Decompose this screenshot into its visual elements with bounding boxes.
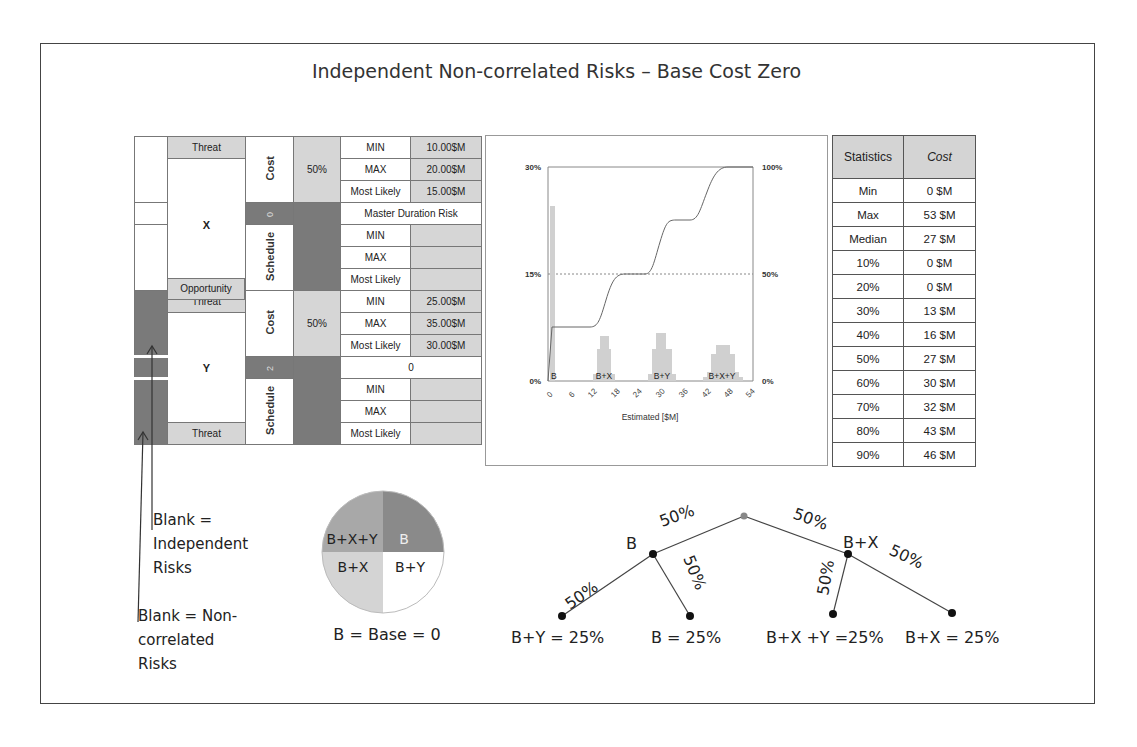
note-line: Blank = Non- xyxy=(138,604,237,628)
y-left-tick-30: 30% xyxy=(525,163,541,172)
stats-value: 16 $M xyxy=(904,323,976,347)
stats-value: 30 $M xyxy=(904,371,976,395)
x-tick: 24 xyxy=(631,386,644,399)
stats-label: 80% xyxy=(833,419,904,443)
y-right-tick-50: 50% xyxy=(762,270,778,279)
x-tick: 42 xyxy=(700,386,713,399)
stats-value: 46 $M xyxy=(904,443,976,467)
stats-value: 13 $M xyxy=(904,299,976,323)
tree-node-label-b: B xyxy=(626,534,637,553)
note-line: Independent xyxy=(153,532,248,556)
stats-header-cost: Cost xyxy=(904,136,976,179)
stats-value: 0 $M xyxy=(904,179,976,203)
tree-node-b xyxy=(649,550,657,558)
stats-value: 53 $M xyxy=(904,203,976,227)
probability-tree xyxy=(562,516,952,616)
stats-row: 30%13 $M xyxy=(833,299,976,323)
tree-root-node xyxy=(741,513,748,520)
cluster-label-b: B xyxy=(551,371,557,381)
stats-label: 30% xyxy=(833,299,904,323)
outcome-pie-chart xyxy=(322,491,444,613)
stats-row: 40%16 $M xyxy=(833,323,976,347)
note-line: Risks xyxy=(138,652,237,676)
x-tick: 30 xyxy=(654,386,667,399)
stats-value: 27 $M xyxy=(904,227,976,251)
cluster-label-by: B+Y xyxy=(654,371,671,381)
y-left-tick-0: 0% xyxy=(529,377,541,386)
tree-leaf-label: B+X = 25% xyxy=(905,628,999,647)
tree-branch-label: 50% xyxy=(679,552,710,592)
tree-leaf-label: B = 25% xyxy=(651,628,721,647)
tree-leaf-label: B+X +Y =25% xyxy=(766,628,884,647)
tree-leaf-label: B+Y = 25% xyxy=(511,628,604,647)
stats-row: Max53 $M xyxy=(833,203,976,227)
tree-leaf xyxy=(829,610,837,618)
stats-header-statistics: Statistics xyxy=(833,136,904,179)
stats-value: 0 $M xyxy=(904,275,976,299)
stats-row: 80%43 $M xyxy=(833,419,976,443)
cluster-label-bxy: B+X+Y xyxy=(709,371,736,381)
pie-caption: B = Base = 0 xyxy=(333,625,440,644)
stats-label: 20% xyxy=(833,275,904,299)
tree-branch-label: 50% xyxy=(791,504,831,534)
x-tick: 6 xyxy=(567,390,577,400)
stats-row: 70%32 $M xyxy=(833,395,976,419)
stats-label: Median xyxy=(833,227,904,251)
cluster-label-bx: B+X xyxy=(596,371,613,381)
x-tick: 48 xyxy=(722,386,735,399)
x-tick: 12 xyxy=(586,386,599,399)
stats-label: 50% xyxy=(833,347,904,371)
x-tick: 36 xyxy=(677,386,690,399)
stats-label: 10% xyxy=(833,251,904,275)
x-axis-label: Estimated [$M] xyxy=(622,412,679,422)
stats-row: Median27 $M xyxy=(833,227,976,251)
stats-value: 43 $M xyxy=(904,419,976,443)
tree-leaf xyxy=(686,612,694,620)
histogram-bars xyxy=(550,206,743,381)
pie-label-b: B xyxy=(399,531,409,547)
statistics-table: Statistics Cost Min0 $M Max53 $M Median2… xyxy=(832,135,976,467)
pie-label-by: B+Y xyxy=(395,559,425,575)
stats-value: 27 $M xyxy=(904,347,976,371)
tree-branch-label: 50% xyxy=(561,577,601,613)
note-noncorrelated-risks: Blank = Non- correlated Risks xyxy=(138,604,237,676)
stats-row: 60%30 $M xyxy=(833,371,976,395)
stats-label: 60% xyxy=(833,371,904,395)
stats-row: 10%0 $M xyxy=(833,251,976,275)
note-line: Risks xyxy=(153,556,248,580)
tree-branch-label: 50% xyxy=(813,558,838,596)
tree-leaf xyxy=(948,609,956,617)
y-right-tick-100: 100% xyxy=(762,163,782,172)
stats-label: Min xyxy=(833,179,904,203)
annotation-arrows xyxy=(138,346,157,622)
tree-branch-label: 50% xyxy=(886,540,926,572)
note-line: Blank = xyxy=(153,508,248,532)
y-left-tick-15: 15% xyxy=(525,270,541,279)
pie-label-bxy: B+X+Y xyxy=(326,531,378,547)
tree-leaf xyxy=(558,612,566,620)
x-tick: 54 xyxy=(744,386,757,399)
stats-row: Min0 $M xyxy=(833,179,976,203)
stats-value: 32 $M xyxy=(904,395,976,419)
x-tick: 18 xyxy=(609,386,622,399)
tree-branch-label: 50% xyxy=(657,501,697,531)
stats-label: 90% xyxy=(833,443,904,467)
stats-row: 90%46 $M xyxy=(833,443,976,467)
y-right-tick-0: 0% xyxy=(762,377,774,386)
stats-label: 40% xyxy=(833,323,904,347)
note-line: correlated xyxy=(138,628,237,652)
stats-row: 20%0 $M xyxy=(833,275,976,299)
pie-label-bx: B+X xyxy=(338,559,369,575)
stats-label: Max xyxy=(833,203,904,227)
stats-row: 50%27 $M xyxy=(833,347,976,371)
x-tick: 0 xyxy=(545,390,555,400)
tree-node-label-bx: B+X xyxy=(843,533,878,552)
stats-label: 70% xyxy=(833,395,904,419)
stats-value: 0 $M xyxy=(904,251,976,275)
note-independent-risks: Blank = Independent Risks xyxy=(153,508,248,580)
